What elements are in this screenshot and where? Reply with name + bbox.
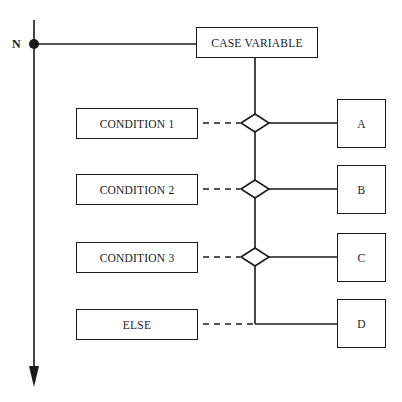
decision-diamond-1 [241,114,269,132]
decision-diamond-3 [241,248,269,266]
outcome-d-box: D [337,299,386,348]
timeline-label: N [12,37,21,52]
decision-diamond-2 [241,180,269,198]
outcome-b-box: B [337,165,386,214]
outcome-a-box: A [337,99,386,148]
condition-3-box: CONDITION 3 [76,242,198,273]
condition-1-box: CONDITION 1 [76,108,198,139]
case-variable-box: CASE VARIABLE [196,27,318,58]
outcome-c-box: C [337,233,386,282]
arrow-down-icon [29,366,39,387]
else-box: ELSE [76,309,198,340]
condition-2-box: CONDITION 2 [76,174,198,205]
